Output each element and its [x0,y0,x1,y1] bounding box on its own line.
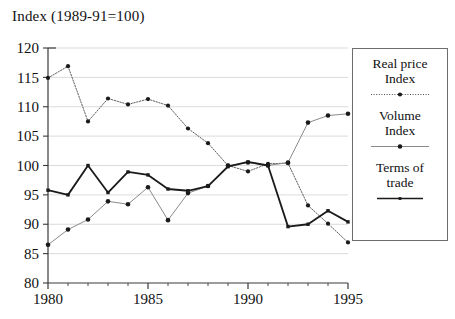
data-point [106,191,109,194]
data-point [186,126,190,130]
y-tick-label: 115 [17,70,39,86]
data-point [206,141,210,145]
data-point [86,119,90,123]
data-point [66,227,71,232]
data-point [286,160,291,165]
x-tick-label: 1985 [133,291,163,307]
data-point [126,202,131,207]
legend-entry-real-price: Real price Index [353,56,447,101]
y-tick-label: 120 [17,40,40,56]
legend-label-real-price: Real price Index [353,56,447,86]
data-point [46,243,51,248]
legend-sample-volume [353,140,447,153]
legend-entry-terms-of-trade: Terms of trade [353,160,447,205]
data-point [286,225,289,228]
x-tick-label: 1980 [33,291,63,307]
data-point [326,113,331,118]
data-point [66,193,69,196]
data-point [306,120,311,125]
data-point [166,218,171,223]
data-point [86,217,91,222]
data-point [246,160,249,163]
data-point [106,96,110,100]
data-point [346,112,351,117]
data-point [186,189,189,192]
data-point [146,173,149,176]
data-point [306,223,309,226]
data-point [226,165,229,168]
legend-label-volume: Volume Index [353,108,447,138]
data-point [166,103,170,107]
data-point [46,188,49,191]
y-tick-label: 110 [17,99,39,115]
data-point [306,203,310,207]
data-point [326,222,330,226]
data-point [66,64,70,68]
y-tick-label: 90 [24,216,39,232]
y-tick-label: 80 [24,275,39,291]
chart-legend: Real price Index Volume Index Terms of t… [352,48,448,241]
data-point [246,169,250,173]
data-point [106,199,111,204]
data-point [266,164,269,167]
series-line-0 [48,66,348,242]
data-point [126,102,130,106]
data-point [46,76,50,80]
data-point [146,97,150,101]
chart-figure: Index (1989-91=100) 80859095100105110115… [0,0,455,319]
data-point [346,240,350,244]
y-tick-label: 95 [24,187,39,203]
data-point [86,164,89,167]
y-tick-label: 105 [17,128,40,144]
legend-label-terms-of-trade: Terms of trade [353,160,447,190]
y-tick-label: 85 [24,246,39,262]
data-point [166,187,169,190]
data-point [346,220,349,223]
legend-sample-terms-of-trade [353,192,447,205]
y-tick-label: 100 [17,158,40,174]
data-point [326,209,329,212]
data-point [126,170,129,173]
legend-sample-real-price [353,88,447,101]
x-tick-label: 1995 [333,291,363,307]
data-point [206,184,209,187]
legend-entry-volume: Volume Index [353,108,447,153]
data-point [146,185,151,190]
x-tick-label: 1990 [233,291,263,307]
